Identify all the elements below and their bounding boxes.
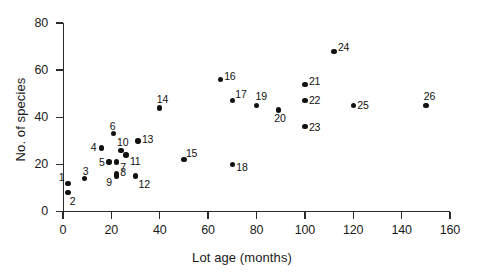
data-point (351, 103, 356, 108)
data-point-label: 20 (274, 113, 285, 124)
data-point-label: 2 (70, 196, 76, 207)
x-tick (401, 212, 402, 219)
data-point-label: 5 (99, 157, 105, 168)
data-point (157, 105, 162, 110)
data-point (114, 173, 119, 178)
y-axis-title: No. of species (13, 60, 28, 180)
x-tick (449, 212, 450, 219)
data-point (82, 176, 87, 181)
x-tick (62, 212, 63, 219)
data-point-label: 24 (338, 42, 349, 53)
data-point (135, 138, 140, 143)
x-tick (353, 212, 354, 219)
x-tick-label: 0 (43, 224, 83, 237)
x-tick (256, 212, 257, 219)
data-point-label: 1 (59, 172, 65, 183)
data-point (99, 145, 104, 150)
data-point-label: 14 (157, 94, 168, 105)
scatter-chart: 020406080 020406080100120140160 12345678… (0, 0, 484, 273)
x-tick-label: 160 (430, 224, 470, 237)
x-tick (159, 212, 160, 219)
x-tick-label: 120 (333, 224, 373, 237)
data-point (123, 152, 128, 157)
data-point (331, 49, 336, 54)
data-point-label: 10 (117, 137, 128, 148)
data-point (302, 98, 307, 103)
data-point-label: 8 (120, 167, 126, 178)
y-tick-label: 80 (18, 17, 48, 30)
data-point-label: 17 (235, 89, 246, 100)
data-point (230, 98, 235, 103)
data-point-label: 11 (130, 156, 141, 167)
data-point (218, 77, 223, 82)
data-point-label: 9 (106, 177, 112, 188)
data-point (114, 159, 119, 164)
data-point-label: 12 (139, 179, 150, 190)
data-point-label: 21 (309, 76, 320, 87)
data-point (106, 159, 111, 164)
data-point (65, 181, 70, 186)
x-tick (207, 212, 208, 219)
data-point (423, 103, 428, 108)
y-tick (56, 22, 63, 23)
data-point-label: 23 (309, 122, 320, 133)
data-point (254, 103, 259, 108)
data-point (111, 131, 116, 136)
data-point-label: 16 (224, 71, 235, 82)
x-tick (111, 212, 112, 219)
data-point-label: 18 (236, 162, 247, 173)
data-point-label: 22 (309, 95, 320, 106)
data-point-label: 6 (110, 121, 116, 132)
data-point-label: 4 (91, 142, 97, 153)
data-point-label: 13 (142, 134, 153, 145)
x-axis-title: Lot age (months) (0, 250, 484, 265)
data-point-label: 26 (424, 91, 435, 102)
x-tick-label: 100 (285, 224, 325, 237)
y-tick (56, 164, 63, 165)
data-point (302, 82, 307, 87)
y-tick (56, 69, 63, 70)
data-point-label: 25 (357, 100, 368, 111)
data-point (133, 173, 138, 178)
x-tick-label: 140 (382, 224, 422, 237)
data-point-label: 19 (256, 91, 267, 102)
data-point (230, 162, 235, 167)
x-tick-label: 80 (237, 224, 277, 237)
data-point-label: 15 (186, 148, 197, 159)
x-tick (304, 212, 305, 219)
x-tick-label: 40 (140, 224, 180, 237)
x-tick-label: 60 (188, 224, 228, 237)
y-tick (56, 117, 63, 118)
data-point (302, 124, 307, 129)
data-point-label: 3 (83, 166, 89, 177)
x-tick-label: 20 (91, 224, 131, 237)
y-tick-label: 0 (18, 205, 48, 218)
